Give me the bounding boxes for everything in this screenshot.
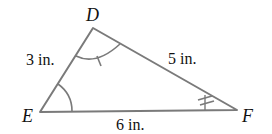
vertex-label-F: F xyxy=(241,106,254,126)
side-label-EF: 6 in. xyxy=(116,116,144,133)
vertex-label-D: D xyxy=(85,5,99,25)
angle-F-tick-2 xyxy=(200,101,214,105)
side-label-DE: 3 in. xyxy=(26,51,54,68)
vertex-label-E: E xyxy=(21,106,33,126)
side-label-DF: 5 in. xyxy=(168,50,196,67)
angle-mark-E xyxy=(58,84,72,111)
triangle-diagram: D E F 3 in. 5 in. 6 in. xyxy=(0,0,272,134)
